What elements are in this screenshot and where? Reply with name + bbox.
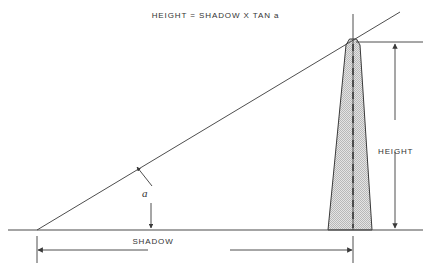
height-dimension-label: HEIGHT — [378, 148, 413, 156]
shadow-height-diagram: HEIGHT = SHADOW X TAN a HEIGHT SHADOW a — [0, 0, 431, 268]
tower-shape — [328, 39, 372, 230]
angle-leader-to-sight-line — [137, 167, 152, 186]
diagram-canvas — [0, 0, 431, 268]
shadow-dimension-label: SHADOW — [0, 238, 306, 246]
angle-label: a — [142, 188, 148, 199]
title-formula: HEIGHT = SHADOW X TAN a — [0, 12, 431, 20]
